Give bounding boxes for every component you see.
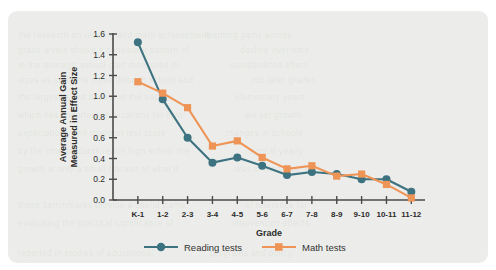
data-point-marker bbox=[259, 154, 266, 161]
x-tick-label: 9-10 bbox=[354, 210, 371, 219]
data-point-marker bbox=[308, 162, 315, 169]
data-point-marker bbox=[209, 142, 216, 149]
legend-item[interactable]: Reading tests bbox=[144, 242, 242, 253]
x-tick-label: 10-11 bbox=[376, 210, 397, 219]
data-point-marker bbox=[208, 159, 216, 167]
x-tick-label: 2-3 bbox=[182, 210, 194, 219]
x-axis-tick-labels: K-11-22-33-44-55-66-77-88-99-1010-1111-1… bbox=[131, 210, 421, 219]
data-point-marker bbox=[184, 104, 191, 111]
legend-label: Reading tests bbox=[184, 242, 242, 253]
chart-series-group bbox=[134, 38, 415, 201]
y-tick-label: 1.0 bbox=[93, 91, 105, 101]
y-tick-label: 0.0 bbox=[93, 195, 105, 205]
x-tick-label: 7-8 bbox=[306, 210, 318, 219]
chart-figure: the research on reading and math achieve… bbox=[0, 0, 496, 270]
x-tick-label: 3-4 bbox=[207, 210, 219, 219]
legend-item[interactable]: Math tests bbox=[262, 242, 346, 253]
y-axis-title-line1: Average Annual Gain bbox=[58, 72, 68, 162]
x-tick-label: 8-9 bbox=[331, 210, 343, 219]
line-chart-svg: 0.00.20.40.60.81.01.21.41.6 K-11-22-33-4… bbox=[0, 0, 496, 270]
chart-series bbox=[134, 38, 415, 195]
x-tick-label: 4-5 bbox=[232, 210, 244, 219]
x-tick-label: K-1 bbox=[131, 210, 144, 219]
series-line bbox=[138, 42, 411, 191]
data-point-marker bbox=[134, 78, 141, 85]
data-point-marker bbox=[408, 194, 415, 201]
x-tick-label: 11-12 bbox=[401, 210, 422, 219]
y-tick-label: 0.8 bbox=[93, 112, 105, 122]
series-line bbox=[138, 82, 411, 198]
y-tick-label: 0.4 bbox=[93, 154, 105, 164]
chart-series bbox=[134, 78, 415, 201]
legend-marker bbox=[275, 243, 283, 251]
y-tick-label: 1.4 bbox=[93, 50, 105, 60]
data-point-marker bbox=[383, 181, 390, 188]
data-point-marker bbox=[358, 170, 365, 177]
chart-plot-area: 0.00.20.40.60.81.01.21.41.6 K-11-22-33-4… bbox=[0, 0, 496, 270]
x-tick-label: 5-6 bbox=[256, 210, 268, 219]
x-tick-label: 1-2 bbox=[157, 210, 169, 219]
x-axis-title: Grade bbox=[256, 228, 282, 238]
legend-marker bbox=[157, 243, 165, 251]
y-tick-label: 1.2 bbox=[93, 71, 105, 81]
data-point-marker bbox=[233, 153, 241, 161]
y-tick-label: 1.6 bbox=[93, 29, 105, 39]
y-tick-label: 0.6 bbox=[93, 133, 105, 143]
data-point-marker bbox=[258, 162, 266, 170]
x-tick-label: 6-7 bbox=[281, 210, 293, 219]
data-point-marker bbox=[134, 38, 142, 46]
data-point-marker bbox=[283, 165, 290, 172]
data-point-marker bbox=[234, 137, 241, 144]
data-point-marker bbox=[159, 90, 166, 97]
data-point-marker bbox=[333, 173, 340, 180]
y-axis-title: Average Annual Gain Measured in Effect S… bbox=[58, 67, 79, 168]
data-point-marker bbox=[184, 134, 192, 142]
chart-legend: Reading testsMath tests bbox=[144, 242, 346, 253]
legend-label: Math tests bbox=[302, 242, 346, 253]
y-axis-title-line2: Measured in Effect Size bbox=[69, 67, 79, 168]
y-tick-label: 0.2 bbox=[93, 174, 105, 184]
y-axis-ticks: 0.00.20.40.60.81.01.21.41.6 bbox=[93, 29, 117, 205]
